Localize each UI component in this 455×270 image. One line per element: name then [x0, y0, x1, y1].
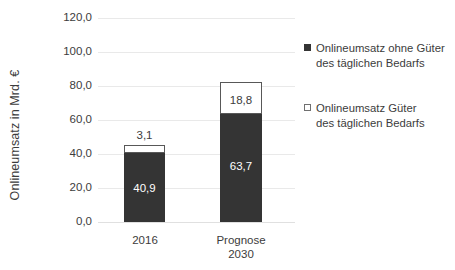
gridline-100 — [98, 52, 295, 53]
legend-swatch-light-icon — [304, 104, 311, 111]
legend-label-ohne-gueter-line2: des täglichen Bedarfs — [316, 56, 454, 71]
legend-item-gueter[interactable]: Onlineumsatz Güter des täglichen Bedarfs — [304, 101, 454, 131]
y-tick-120: 120,0 — [0, 12, 92, 24]
legend-label-ohne-gueter-line1: Onlineumsatz ohne Güter — [316, 41, 454, 56]
bar-segment-light-prognose-2030[interactable]: 18,8 — [220, 82, 262, 114]
bar-segment-light-2016[interactable] — [124, 145, 165, 152]
x-axis-label-2016-line1: 2016 — [104, 233, 186, 247]
y-tick-80: 80,0 — [0, 80, 92, 92]
bar-group-prognose-2030[interactable]: 63,7 18,8 — [220, 82, 262, 222]
bar-value-label-light-2016: 3,1 — [124, 130, 165, 142]
y-tick-40: 40,0 — [0, 148, 92, 160]
bar-value-label-dark-prognose-2030: 63,7 — [220, 161, 262, 173]
y-axis-tick-labels: 120,0 100,0 80,0 60,0 40,0 20,0 0,0 — [0, 18, 92, 222]
bar-value-label-light-prognose-2030: 18,8 — [221, 95, 261, 107]
bar-chart: Onlineumsatz in Mrd. € 120,0 100,0 80,0 … — [0, 0, 455, 270]
y-tick-60: 60,0 — [0, 114, 92, 126]
x-axis-label-prognose-2030-line1: Prognose — [200, 233, 282, 247]
legend-label-gueter: Onlineumsatz Güter des täglichen Bedarfs — [316, 101, 454, 131]
gridline-80 — [98, 86, 295, 87]
gridline-60 — [98, 120, 295, 121]
y-tick-20: 20,0 — [0, 182, 92, 194]
bar-segment-dark-2016[interactable]: 40,9 — [124, 153, 165, 223]
legend-label-gueter-line2: des täglichen Bedarfs — [316, 116, 454, 131]
plot-area: 40,9 3,1 63,7 18,8 — [98, 18, 295, 222]
legend: Onlineumsatz ohne Güter des täglichen Be… — [304, 41, 454, 161]
x-axis-label-prognose-2030-line2: 2030 — [200, 247, 282, 261]
legend-label-gueter-line1: Onlineumsatz Güter — [316, 101, 454, 116]
y-tick-100: 100,0 — [0, 46, 92, 58]
legend-label-ohne-gueter: Onlineumsatz ohne Güter des täglichen Be… — [316, 41, 454, 71]
gridline-120 — [98, 18, 295, 19]
bar-segment-dark-prognose-2030[interactable]: 63,7 — [220, 114, 262, 222]
legend-item-ohne-gueter[interactable]: Onlineumsatz ohne Güter des täglichen Be… — [304, 41, 454, 71]
legend-swatch-dark-icon — [304, 44, 311, 51]
x-axis-label-2016: 2016 — [104, 233, 186, 247]
gridline-0 — [98, 222, 295, 223]
x-axis-label-prognose-2030: Prognose 2030 — [200, 233, 282, 261]
bar-value-label-dark-2016: 40,9 — [124, 183, 165, 195]
bar-group-2016[interactable]: 40,9 3,1 — [124, 147, 165, 222]
y-tick-0: 0,0 — [0, 216, 92, 228]
